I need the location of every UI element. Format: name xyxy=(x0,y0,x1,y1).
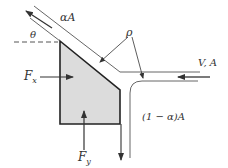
label-upper-jet: αA xyxy=(60,11,75,24)
label-lower-jet: (1 − α)A xyxy=(142,111,185,122)
label-force-y: Fy xyxy=(77,150,91,166)
label-incoming-jet: V, A xyxy=(198,57,217,68)
density-pointer-left xyxy=(100,37,128,62)
label-density: ρ xyxy=(125,26,133,39)
label-angle: θ xyxy=(30,29,36,40)
plate-body xyxy=(60,41,120,124)
label-force-x: Fx xyxy=(23,69,37,85)
jet-plate-diagram: αA θ ρ V, A (1 − α)A Fx Fy xyxy=(0,0,228,168)
